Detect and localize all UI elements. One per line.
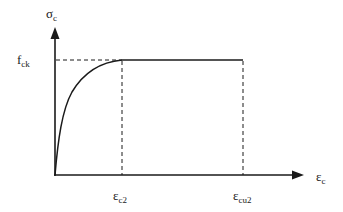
y-axis-label-subscript: c xyxy=(53,13,57,23)
parabola-curve xyxy=(55,60,122,175)
ecu2-label-subscript: cu2 xyxy=(238,195,251,205)
ec2-label-subscript: c2 xyxy=(118,195,127,205)
y-axis-label-symbol: σ xyxy=(46,6,53,21)
x-axis-arrow-icon xyxy=(292,171,304,180)
stress-strain-diagram xyxy=(0,0,343,212)
x-axis-label: εc xyxy=(316,170,325,183)
x-axis-label-subscript: c xyxy=(321,176,325,186)
ecu2-label: εcu2 xyxy=(233,189,251,202)
y-axis-label: σc xyxy=(46,7,57,20)
y-axis-arrow-icon xyxy=(51,27,60,39)
fck-label-subscript: ck xyxy=(21,59,30,69)
ec2-label: εc2 xyxy=(113,189,127,202)
fck-label: fck xyxy=(17,53,30,66)
